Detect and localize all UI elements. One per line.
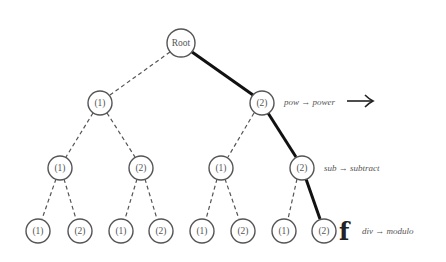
node-label: (2) [237,226,248,237]
solid-edge-l2-4-l3-2 [306,179,320,219]
node-l1-2: (2) [250,91,274,115]
node-label: (1) [196,226,207,237]
node-l3-1: (1) [26,219,50,243]
node-label: (2) [135,163,146,174]
edge-l1-1-l2-2 [107,113,135,157]
node-label: (2) [296,163,307,174]
node-l3-7: (1) [272,219,296,243]
node-l3-3: (1) [109,219,133,243]
root-node: Root [167,29,195,57]
node-label: (1) [32,226,43,237]
node-l2-4: (2) [290,156,314,180]
edge-l1-1-l2-1 [66,113,93,157]
dashed-edges [42,52,297,219]
node-l3-8: (2) [312,219,336,243]
node-label: (1) [54,163,65,174]
node-label: (2) [256,98,267,109]
node-l2-1: (1) [48,156,72,180]
node-label: (1) [115,226,126,237]
node-l2-3: (1) [209,156,233,180]
edge-root-l1-1 [110,52,170,95]
edge-l1-2-l2-1 [228,113,254,157]
solid-edge-root-l1-2 [192,52,253,95]
node-label: (2) [74,226,85,237]
node-l2-2: (2) [129,156,153,180]
node-label: (1) [94,98,105,109]
annotation-div-modulo: div → modulo [362,226,414,236]
edge-l2-4-l3-1 [288,179,297,219]
node-label: (2) [155,226,166,237]
edge-l2-2-l3-1 [125,179,137,219]
tree-diagram: Root (1) (2) (1) (2) (1) (2) (1) (2) (1) [0,0,446,262]
node-label: (2) [318,226,329,237]
node-label: (1) [278,226,289,237]
node-l3-5: (1) [190,219,214,243]
right-arrow-icon [347,95,373,107]
final-marker-f: f [339,217,351,246]
solid-edge-l1-2-l2-4 [268,113,296,157]
node-label: (1) [215,163,226,174]
annotation-pow-power: pow → power [283,97,336,107]
annotation-sub-subtract: sub → subtract [324,163,380,173]
node-l3-2: (2) [68,219,92,243]
edge-l2-1-l3-1 [42,179,56,219]
node-l3-4: (2) [149,219,173,243]
edge-l2-3-l3-1 [206,179,217,219]
node-l3-6: (2) [231,219,255,243]
highlighted-path [192,52,320,219]
root-label: Root [172,38,191,48]
edge-l2-3-l3-2 [225,179,239,219]
edge-l2-1-l3-2 [64,179,76,219]
node-l1-1: (1) [88,91,112,115]
edge-l2-2-l3-2 [145,179,157,219]
